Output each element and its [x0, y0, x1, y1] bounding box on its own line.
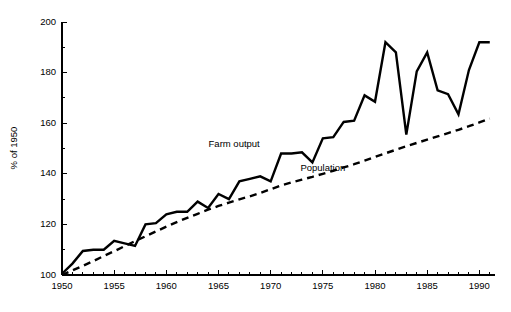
series-label-population: Population — [300, 162, 345, 173]
x-tick-label: 1990 — [469, 280, 490, 291]
x-tick-label: 1975 — [312, 280, 333, 291]
x-tick-label: 1985 — [417, 280, 438, 291]
x-tick-label: 1965 — [208, 280, 229, 291]
x-tick-label: 1960 — [156, 280, 177, 291]
y-tick-label: 120 — [40, 218, 56, 229]
y-axis-title: % of 1950 — [8, 127, 19, 170]
x-tick-label: 1970 — [260, 280, 281, 291]
y-tick-label: 160 — [40, 117, 56, 128]
chart-container: 100120140160180200 195019551960196519701… — [0, 0, 511, 312]
y-tick-label: 100 — [40, 269, 56, 280]
series-label-farm-output: Farm output — [209, 138, 261, 149]
y-tick-label: 140 — [40, 167, 56, 178]
x-axis-tick-labels: 195019551960196519701975198019851990 — [51, 280, 489, 291]
y-tick-label: 180 — [40, 66, 56, 77]
chart-background — [0, 0, 511, 312]
line-chart-figure: 100120140160180200 195019551960196519701… — [0, 0, 511, 312]
y-tick-label: 200 — [40, 16, 56, 27]
x-tick-label: 1955 — [104, 280, 125, 291]
x-tick-label: 1950 — [51, 280, 72, 291]
x-tick-label: 1980 — [364, 280, 385, 291]
